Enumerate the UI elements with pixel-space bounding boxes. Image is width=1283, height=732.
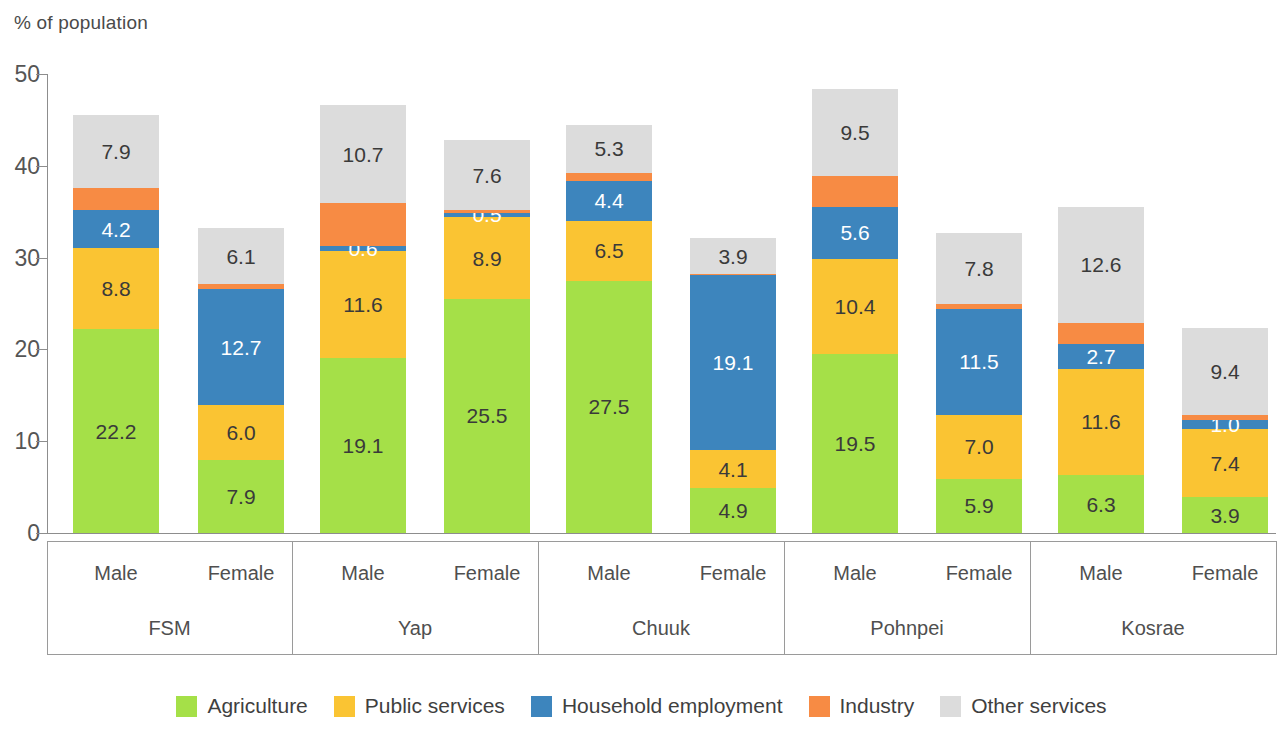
bar-segment[interactable]: 6.0	[198, 405, 284, 460]
bar-segment[interactable]	[444, 210, 530, 213]
bar-segment[interactable]: 1.0	[1182, 420, 1268, 429]
sub-category-label: Female	[454, 562, 521, 585]
y-tick-mark	[36, 258, 47, 259]
group-divider	[47, 541, 48, 655]
bar-value-label: 10.7	[343, 144, 384, 165]
stacked-bar[interactable]: 19.111.60.610.7	[320, 105, 406, 533]
bar-segment[interactable]: 4.2	[73, 210, 159, 249]
bar-segment[interactable]: 11.5	[936, 309, 1022, 415]
bar-segment[interactable]	[936, 304, 1022, 309]
legend-label: Household employment	[562, 694, 783, 718]
bar-value-label: 5.6	[840, 222, 869, 243]
bar-value-label: 8.9	[472, 248, 501, 269]
stacked-bar[interactable]: 25.58.90.57.6	[444, 140, 530, 533]
bar-segment[interactable]: 6.1	[198, 228, 284, 284]
bar-segment[interactable]: 8.9	[444, 217, 530, 299]
bar-segment[interactable]: 0.5	[444, 213, 530, 218]
bar-segment[interactable]: 7.6	[444, 140, 530, 210]
bar-segment[interactable]: 8.8	[73, 248, 159, 329]
bar-segment[interactable]: 19.5	[812, 354, 898, 533]
bar-value-label: 7.9	[226, 486, 255, 507]
legend-item[interactable]: Agriculture	[176, 694, 307, 718]
bar-value-label: 10.4	[835, 296, 876, 317]
legend-label: Agriculture	[207, 694, 307, 718]
bar-segment[interactable]: 7.0	[936, 415, 1022, 479]
group-label: FSM	[148, 617, 190, 640]
bar-segment[interactable]: 10.7	[320, 105, 406, 203]
stacked-bar[interactable]: 5.97.011.57.8	[936, 233, 1022, 533]
bar-segment[interactable]: 5.3	[566, 125, 652, 174]
stacked-bar[interactable]: 27.56.54.45.3	[566, 124, 652, 533]
stacked-bar[interactable]: 4.94.119.13.9	[690, 238, 776, 533]
y-tick-label: 20	[0, 336, 40, 363]
bar-segment[interactable]: 5.9	[936, 479, 1022, 533]
bar-segment[interactable]: 6.3	[1058, 475, 1144, 533]
bar-value-label: 7.6	[472, 165, 501, 186]
y-tick-mark	[36, 533, 47, 534]
bar-segment[interactable]: 7.4	[1182, 429, 1268, 497]
bar-segment[interactable]	[73, 188, 159, 210]
bar-segment[interactable]: 3.9	[690, 238, 776, 274]
sub-category-label: Female	[208, 562, 275, 585]
group-divider	[1276, 541, 1277, 655]
y-tick-label: 50	[0, 61, 40, 88]
legend-item[interactable]: Household employment	[531, 694, 783, 718]
stacked-bar[interactable]: 19.510.45.69.5	[812, 89, 898, 533]
legend-swatch	[531, 696, 552, 717]
bar-segment[interactable]: 19.1	[320, 358, 406, 533]
bar-value-label: 19.5	[835, 433, 876, 454]
bar-segment[interactable]: 0.6	[320, 246, 406, 252]
bar-segment[interactable]	[1182, 415, 1268, 421]
legend-swatch	[334, 696, 355, 717]
bar-segment[interactable]: 12.6	[1058, 207, 1144, 323]
stacked-bar[interactable]: 3.97.41.09.4	[1182, 328, 1268, 533]
bar-segment[interactable]: 11.6	[1058, 369, 1144, 475]
bar-segment[interactable]: 25.5	[444, 299, 530, 533]
bar-segment[interactable]	[320, 203, 406, 245]
bar-value-label: 6.5	[594, 240, 623, 261]
bar-value-label: 7.0	[964, 436, 993, 457]
bar-segment[interactable]: 19.1	[690, 275, 776, 450]
bar-value-label: 12.6	[1081, 254, 1122, 275]
bar-segment[interactable]: 6.5	[566, 221, 652, 281]
bar-segment[interactable]: 7.8	[936, 233, 1022, 305]
bar-segment[interactable]: 4.1	[690, 450, 776, 488]
bar-segment[interactable]: 9.5	[812, 89, 898, 176]
bar-segment[interactable]: 27.5	[566, 281, 652, 533]
bar-segment[interactable]: 7.9	[198, 460, 284, 533]
bar-segment[interactable]: 7.9	[73, 115, 159, 188]
stacked-bar[interactable]: 7.96.012.76.1	[198, 228, 284, 533]
bar-segment[interactable]: 2.7	[1058, 344, 1144, 369]
chart-legend: AgriculturePublic servicesHousehold empl…	[0, 694, 1283, 718]
bar-value-label: 19.1	[713, 352, 754, 373]
legend-item[interactable]: Industry	[809, 694, 915, 718]
legend-item[interactable]: Public services	[334, 694, 505, 718]
bar-segment[interactable]	[812, 176, 898, 207]
bar-segment[interactable]: 12.7	[198, 289, 284, 406]
x-axis-baseline	[36, 533, 1276, 534]
y-tick-label: 10	[0, 428, 40, 455]
bar-segment[interactable]: 3.9	[1182, 497, 1268, 533]
bar-segment[interactable]: 5.6	[812, 207, 898, 258]
bar-segment[interactable]: 9.4	[1182, 328, 1268, 414]
stacked-bar[interactable]: 6.311.62.712.6	[1058, 207, 1144, 533]
bar-segment[interactable]: 22.2	[73, 329, 159, 533]
bar-value-label: 7.9	[101, 141, 130, 162]
bar-segment[interactable]: 4.4	[566, 181, 652, 221]
bar-value-label: 4.1	[718, 459, 747, 480]
bar-segment[interactable]: 11.6	[320, 251, 406, 357]
stacked-bar[interactable]: 22.28.84.27.9	[73, 115, 159, 533]
group-label: Yap	[398, 617, 432, 640]
legend-item[interactable]: Other services	[940, 694, 1106, 718]
bar-segment[interactable]	[690, 274, 776, 275]
y-tick-mark	[36, 166, 47, 167]
legend-swatch	[176, 696, 197, 717]
bar-segment[interactable]: 10.4	[812, 259, 898, 354]
bar-segment[interactable]	[1058, 323, 1144, 344]
bar-segment[interactable]	[198, 284, 284, 289]
bar-segment[interactable]	[566, 173, 652, 180]
sub-category-label: Male	[1079, 562, 1122, 585]
bar-value-label: 5.3	[594, 138, 623, 159]
bar-segment[interactable]: 4.9	[690, 488, 776, 533]
sub-category-label: Female	[946, 562, 1013, 585]
